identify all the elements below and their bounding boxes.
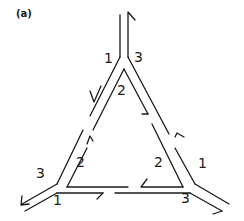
outer-bottom-edge — [57, 193, 190, 199]
bottom-left-arm — [21, 184, 57, 211]
outer-left-edge — [57, 57, 120, 184]
label-left-outer: 3 — [36, 165, 45, 181]
ribbon-triangle-diagram: 1 3 2 3 2 2 1 1 3 — [0, 0, 244, 221]
label-top-left: 1 — [104, 50, 113, 66]
label-bottom-left: 1 — [53, 192, 62, 208]
label-left-inner: 2 — [76, 154, 85, 170]
label-top-right: 3 — [134, 49, 143, 65]
top-stem — [120, 12, 135, 57]
right-arm-arrow-icon — [213, 211, 222, 214]
label-right-inner: 2 — [154, 154, 163, 170]
inner-left-arrow-icon — [87, 136, 93, 144]
label-right-outer: 1 — [198, 155, 207, 171]
label-top-inner: 2 — [117, 82, 126, 98]
inner-bottom-arrow-icon — [141, 179, 183, 187]
outer-left-arrow-icon — [90, 86, 101, 102]
outer-right-arrow-icon — [175, 133, 184, 137]
bottom-arrow-icon — [97, 193, 103, 199]
label-bottom-right: 3 — [181, 190, 190, 206]
bottom-right-arm — [190, 184, 229, 214]
